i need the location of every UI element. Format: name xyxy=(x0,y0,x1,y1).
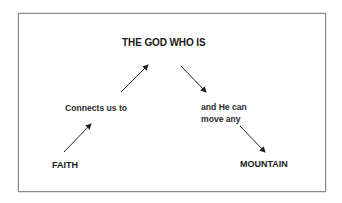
node-the-god-who-is: THE GOD WHO IS xyxy=(122,38,206,48)
node-and-he-can-move-any: and He can move any xyxy=(201,102,247,125)
node-faith: FAITH xyxy=(52,161,78,170)
node-connects-us-to: Connects us to xyxy=(65,104,127,113)
node-mountain: MOUNTAIN xyxy=(240,160,288,169)
